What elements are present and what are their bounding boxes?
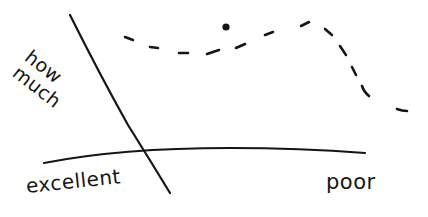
x-axis-label-poor: poor	[326, 172, 376, 193]
y-axis-line	[70, 15, 170, 193]
data-point-dot	[222, 23, 229, 30]
dashed-curve	[125, 22, 407, 111]
x-axis-line	[44, 148, 365, 163]
